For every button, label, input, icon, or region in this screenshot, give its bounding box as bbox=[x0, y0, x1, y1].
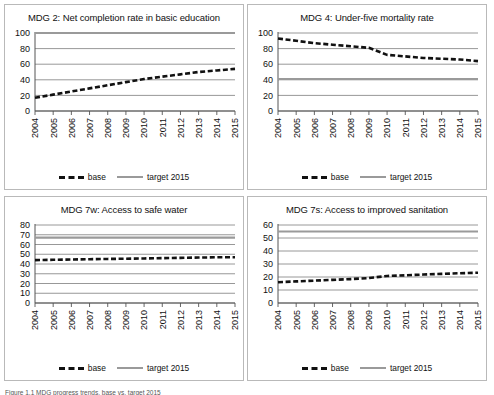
svg-text:2005: 2005 bbox=[292, 310, 302, 330]
plot-area: 0204060801002004200520062007200820092010… bbox=[5, 27, 243, 157]
svg-text:2005: 2005 bbox=[49, 118, 59, 138]
svg-text:2013: 2013 bbox=[194, 118, 204, 138]
svg-text:20: 20 bbox=[263, 91, 273, 101]
svg-text:2009: 2009 bbox=[364, 118, 374, 138]
svg-text:30: 30 bbox=[20, 269, 30, 279]
svg-text:2010: 2010 bbox=[382, 310, 392, 330]
svg-text:2011: 2011 bbox=[158, 310, 168, 329]
svg-text:2007: 2007 bbox=[85, 118, 95, 138]
svg-text:2006: 2006 bbox=[67, 310, 77, 330]
svg-text:100: 100 bbox=[258, 28, 273, 38]
chart-legend: base target 2015 bbox=[5, 363, 243, 373]
plot-area: 0102030405060708020042005200620072008200… bbox=[5, 219, 243, 349]
svg-text:2009: 2009 bbox=[364, 310, 374, 330]
svg-text:0: 0 bbox=[268, 106, 273, 116]
solid-line-icon bbox=[360, 176, 386, 178]
svg-text:2005: 2005 bbox=[49, 310, 59, 330]
svg-text:2010: 2010 bbox=[139, 310, 149, 330]
svg-text:50: 50 bbox=[20, 249, 30, 259]
solid-line-icon bbox=[117, 367, 143, 369]
svg-text:20: 20 bbox=[20, 91, 30, 101]
legend-label-base: base bbox=[331, 172, 349, 182]
legend-entry-target: target 2015 bbox=[117, 172, 189, 182]
svg-text:60: 60 bbox=[20, 240, 30, 250]
chart-legend: base target 2015 bbox=[248, 363, 486, 373]
legend-entry-target: target 2015 bbox=[360, 172, 432, 182]
svg-text:30: 30 bbox=[263, 259, 273, 269]
svg-text:70: 70 bbox=[20, 230, 30, 240]
svg-text:2013: 2013 bbox=[437, 118, 447, 138]
svg-text:60: 60 bbox=[263, 220, 273, 230]
svg-text:10: 10 bbox=[20, 288, 30, 298]
svg-text:2005: 2005 bbox=[292, 118, 302, 138]
figure-caption: Figure 1.1 MDG progress trends, base vs.… bbox=[5, 388, 161, 395]
svg-text:2006: 2006 bbox=[67, 118, 77, 138]
svg-text:2008: 2008 bbox=[103, 118, 113, 138]
legend-entry-target: target 2015 bbox=[360, 363, 432, 373]
svg-text:2014: 2014 bbox=[212, 310, 222, 330]
svg-text:2008: 2008 bbox=[346, 310, 356, 330]
svg-text:0: 0 bbox=[25, 106, 30, 116]
solid-line-icon bbox=[117, 176, 143, 178]
legend-label-target: target 2015 bbox=[147, 172, 189, 182]
svg-text:2013: 2013 bbox=[437, 310, 447, 330]
svg-text:2004: 2004 bbox=[273, 118, 283, 138]
svg-text:2004: 2004 bbox=[273, 310, 283, 330]
solid-line-icon bbox=[360, 367, 386, 369]
svg-text:40: 40 bbox=[263, 246, 273, 256]
chart-svg: 0204060801002004200520062007200820092010… bbox=[5, 27, 243, 157]
legend-label-target: target 2015 bbox=[390, 363, 432, 373]
dashed-line-icon bbox=[59, 176, 84, 179]
legend-entry-base: base bbox=[302, 363, 349, 373]
chart-legend: base target 2015 bbox=[248, 172, 486, 182]
plot-area: 0204060801002004200520062007200820092010… bbox=[248, 27, 486, 157]
svg-text:2011: 2011 bbox=[158, 118, 168, 137]
legend-entry-base: base bbox=[59, 172, 106, 182]
svg-text:80: 80 bbox=[263, 44, 273, 54]
svg-text:100: 100 bbox=[15, 28, 30, 38]
svg-text:2011: 2011 bbox=[401, 118, 411, 137]
svg-text:2012: 2012 bbox=[176, 310, 186, 330]
svg-text:2010: 2010 bbox=[382, 118, 392, 138]
svg-text:2008: 2008 bbox=[346, 118, 356, 138]
svg-text:80: 80 bbox=[20, 44, 30, 54]
svg-text:0: 0 bbox=[25, 298, 30, 308]
svg-text:40: 40 bbox=[20, 259, 30, 269]
legend-label-target: target 2015 bbox=[390, 172, 432, 182]
svg-text:2007: 2007 bbox=[328, 118, 338, 138]
svg-text:40: 40 bbox=[20, 75, 30, 85]
svg-text:2008: 2008 bbox=[103, 310, 113, 330]
svg-text:2012: 2012 bbox=[176, 118, 186, 138]
svg-text:2013: 2013 bbox=[194, 310, 204, 330]
svg-text:2006: 2006 bbox=[310, 310, 320, 330]
svg-text:40: 40 bbox=[263, 75, 273, 85]
legend-entry-target: target 2015 bbox=[117, 363, 189, 373]
svg-text:2015: 2015 bbox=[230, 310, 240, 330]
svg-text:50: 50 bbox=[263, 233, 273, 243]
chart-panel-mdg7w: MDG 7w: Access to safe water 01020304050… bbox=[4, 196, 244, 381]
svg-text:10: 10 bbox=[263, 285, 273, 295]
svg-text:60: 60 bbox=[263, 59, 273, 69]
chart-title: MDG 2: Net completion rate in basic educ… bbox=[5, 5, 243, 24]
legend-label-base: base bbox=[88, 363, 106, 373]
plot-area: 0102030405060200420052006200720082009201… bbox=[248, 219, 486, 349]
svg-text:2014: 2014 bbox=[212, 118, 222, 138]
svg-text:2012: 2012 bbox=[419, 310, 429, 330]
svg-text:2012: 2012 bbox=[419, 118, 429, 138]
svg-text:2010: 2010 bbox=[139, 118, 149, 138]
chart-title: MDG 4: Under-five mortality rate bbox=[248, 5, 486, 24]
svg-text:60: 60 bbox=[20, 59, 30, 69]
svg-text:80: 80 bbox=[20, 220, 30, 230]
svg-text:2014: 2014 bbox=[455, 310, 465, 330]
legend-label-base: base bbox=[331, 363, 349, 373]
svg-text:2004: 2004 bbox=[30, 118, 40, 138]
chart-panel-mdg7s: MDG 7s: Access to improved sanitation 01… bbox=[247, 196, 487, 381]
svg-text:2011: 2011 bbox=[401, 310, 411, 329]
svg-text:0: 0 bbox=[268, 298, 273, 308]
chart-svg: 0102030405060200420052006200720082009201… bbox=[248, 219, 486, 349]
svg-text:2007: 2007 bbox=[85, 310, 95, 330]
chart-legend: base target 2015 bbox=[5, 172, 243, 182]
chart-panel-mdg2: MDG 2: Net completion rate in basic educ… bbox=[4, 4, 244, 190]
svg-text:2009: 2009 bbox=[121, 118, 131, 138]
